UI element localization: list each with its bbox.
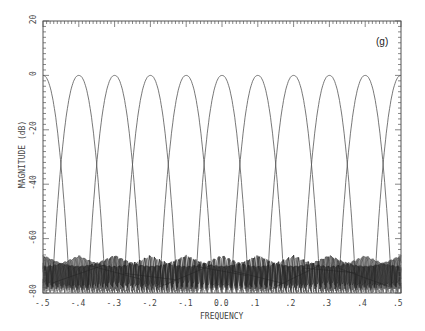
x-tick-label: .1	[250, 299, 260, 308]
axis-ticks	[43, 21, 401, 293]
filter-curve	[374, 75, 401, 287]
y-tick-label: 0	[29, 65, 38, 83]
x-tick-label: -.3	[107, 299, 121, 308]
panel-label: (g)	[376, 36, 388, 47]
x-tick-label: -.4	[71, 299, 85, 308]
x-axis-label: FREQUENCY	[200, 312, 243, 321]
filter-curve	[303, 75, 357, 287]
filter-curve	[43, 75, 70, 287]
filter-response-curves	[43, 75, 401, 287]
x-tick-label: .5	[393, 299, 403, 308]
x-tick-label: .3	[321, 299, 331, 308]
x-tick-label: .4	[357, 299, 367, 308]
x-tick-label: 0.0	[214, 299, 228, 308]
y-tick-label: -80	[29, 283, 38, 301]
x-tick-label: -.1	[178, 299, 192, 308]
y-tick-label: -20	[29, 119, 38, 137]
y-tick-label: -40	[29, 174, 38, 192]
filter-curve	[338, 75, 392, 287]
filter-bank-chart	[0, 0, 425, 331]
filter-curve	[124, 75, 178, 287]
x-tick-label: -.2	[142, 299, 156, 308]
plot-frame	[43, 21, 401, 293]
y-tick-label: -60	[29, 228, 38, 246]
x-tick-label: .2	[286, 299, 296, 308]
y-tick-label: 20	[29, 11, 38, 29]
filter-curve	[195, 75, 249, 287]
y-axis-label: MAGNITUDE (dB)	[18, 115, 27, 195]
